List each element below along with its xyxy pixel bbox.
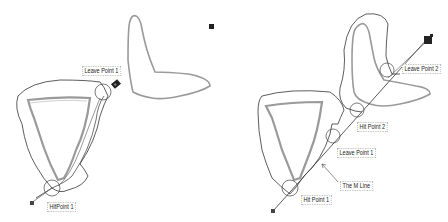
obstacle-triangle-right	[266, 102, 322, 180]
bug-algorithm-diagram	[0, 0, 448, 222]
label-hit-point-1-left: HitPoint 1	[47, 202, 76, 212]
label-hit-point-2-right: Hit Point 2	[357, 122, 388, 132]
robot-icon-right	[424, 34, 433, 44]
obstacle-boomerang	[128, 16, 210, 99]
label-leave-point-2-right: Leave Point 2	[402, 64, 441, 74]
robot-icon	[111, 79, 121, 89]
start-marker-right	[271, 209, 275, 213]
start-marker	[30, 201, 34, 205]
label-leave-point-1-left: Leave Point 1	[82, 66, 121, 76]
label-m-line: The M Line	[340, 181, 373, 191]
label-leave-point-1-right: Leave Point 1	[337, 148, 376, 158]
label-hit-point-1-right: Hit Point 1	[301, 195, 332, 205]
goal-marker	[209, 24, 214, 29]
leave-point-1-circle	[326, 129, 340, 143]
leave-point-2-circle	[380, 63, 394, 77]
left-panel	[17, 16, 214, 205]
